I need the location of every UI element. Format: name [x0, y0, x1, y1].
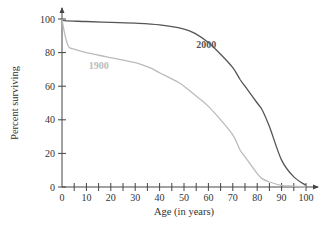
x-axis-arrow — [313, 185, 319, 190]
y-tick-label: 40 — [45, 114, 55, 125]
series-label-1900: 1900 — [89, 60, 109, 71]
x-tick-label: 0 — [60, 192, 65, 203]
y-tick-label: 100 — [40, 14, 55, 25]
y-tick-label: 60 — [45, 81, 55, 92]
x-tick-label: 80 — [252, 192, 262, 203]
x-tick-label: 20 — [106, 192, 116, 203]
y-tick-label: 0 — [50, 182, 55, 193]
x-tick-label: 30 — [130, 192, 140, 203]
x-tick-label: 50 — [179, 192, 189, 203]
series-line-1900 — [62, 19, 306, 187]
series-group: 20001900 — [62, 19, 306, 187]
x-tick-label: 90 — [277, 192, 287, 203]
series-label-2000: 2000 — [196, 39, 216, 50]
y-tick-label: 20 — [45, 148, 55, 159]
y-axis-title: Percent surviving — [9, 65, 20, 140]
survival-chart: 0204060801000102030405060708090100 20001… — [0, 0, 333, 232]
y-axis-arrow — [60, 7, 65, 13]
x-tick-label: 100 — [299, 192, 314, 203]
axes: 0204060801000102030405060708090100 — [40, 7, 319, 203]
x-tick-label: 10 — [81, 192, 91, 203]
x-tick-label: 70 — [228, 192, 238, 203]
series-line-2000 — [62, 19, 306, 185]
y-tick-label: 80 — [45, 47, 55, 58]
x-tick-label: 40 — [155, 192, 165, 203]
x-axis-title: Age (in years) — [154, 206, 215, 218]
x-tick-label: 60 — [203, 192, 213, 203]
